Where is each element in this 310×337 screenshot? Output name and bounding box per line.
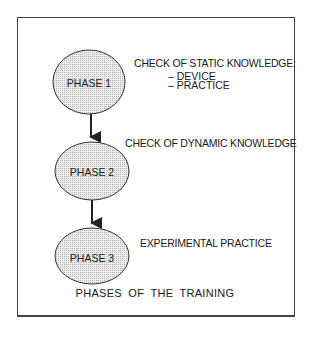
phase-1-subitem-practice: – PRACTICE [168,81,230,91]
phase-2-description: CHECK OF DYNAMIC KNOWLEDGE [125,138,297,149]
phase-1-description: CHECK OF STATIC KNOWLEDGE: [134,58,296,69]
diagram-caption: PHASES OF THE TRAINING [0,287,310,299]
phase-2-label: PHASE 2 [70,166,114,178]
phase-3-description: EXPERIMENTAL PRACTICE [140,238,272,249]
phase-1-label: PHASE 1 [67,77,111,89]
phase-3-label: PHASE 3 [70,252,114,264]
